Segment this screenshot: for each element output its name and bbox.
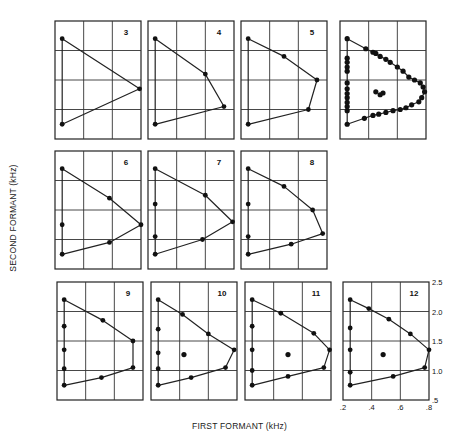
vowel-point: [311, 331, 316, 336]
vowel-point: [156, 383, 161, 388]
vowel-point: [363, 46, 368, 51]
vowel-point: [282, 54, 287, 59]
vowel-point: [408, 332, 413, 337]
vowel-point: [246, 122, 251, 127]
center-vowel-point: [381, 352, 386, 357]
panel-3: 3: [55, 21, 142, 139]
vowel-point: [246, 234, 251, 239]
vowel-point: [153, 166, 158, 171]
y-tick-label: 1.0: [432, 367, 442, 376]
vowel-point: [62, 366, 67, 371]
vowel-point: [232, 347, 237, 352]
vowel-point: [310, 208, 315, 213]
vowel-point: [327, 347, 332, 352]
vowel-point: [246, 166, 251, 171]
panel-number: 5: [310, 28, 315, 37]
vowel-point: [383, 57, 388, 62]
vowel-point: [246, 36, 251, 41]
vowel-point: [427, 347, 432, 352]
vowel-point: [62, 297, 67, 302]
vowel-point: [388, 60, 393, 65]
vowel-point: [153, 202, 158, 207]
vowel-point: [370, 113, 375, 118]
vowel-point: [60, 122, 65, 127]
panel-number: 12: [410, 289, 419, 298]
vowel-point: [345, 64, 350, 69]
panel-number: 10: [218, 289, 227, 298]
x-tick-label: .4: [369, 403, 375, 412]
vowel-point: [250, 368, 255, 373]
vowel-point: [223, 365, 228, 370]
vowel-point: [60, 252, 65, 257]
vowel-point: [348, 370, 353, 375]
vowel-point: [412, 77, 417, 82]
vowel-point: [422, 365, 427, 370]
panel-10: 10: [151, 282, 237, 400]
vowel-point: [62, 383, 67, 388]
vowel-point: [153, 234, 158, 239]
panel-number: 4: [217, 28, 222, 37]
vowel-point: [398, 107, 403, 112]
vowel-point: [406, 74, 411, 79]
vowel-point: [416, 99, 421, 104]
vowel-point: [250, 347, 255, 352]
panel-number: 6: [124, 158, 129, 167]
vowel-point: [348, 383, 353, 388]
vowel-point: [60, 222, 65, 227]
center-vowel-point: [373, 89, 378, 94]
vowel-point: [153, 122, 158, 127]
panel-number: 8: [310, 158, 315, 167]
vowel-point: [60, 166, 65, 171]
vowel-point: [409, 102, 414, 107]
panel-9: 9: [57, 282, 143, 400]
center-vowel-point: [380, 90, 385, 95]
vowel-point: [153, 36, 158, 41]
vowel-point: [250, 324, 255, 329]
vowel-point: [348, 297, 353, 302]
vowel-point: [421, 84, 426, 89]
vowel-point: [376, 112, 381, 117]
vowel-point: [100, 318, 105, 323]
vowel-point: [131, 365, 136, 370]
vowel-point: [131, 339, 136, 344]
vowel-point: [99, 375, 104, 380]
panel-4: 4: [148, 21, 234, 139]
vowel-point: [156, 350, 161, 355]
vowel-point: [139, 222, 144, 227]
vowel-point: [362, 116, 367, 121]
vowel-point: [378, 54, 383, 59]
panel-11: 11: [245, 282, 332, 400]
vowel-point: [180, 312, 185, 317]
vowel-point: [345, 91, 350, 96]
vowel-point: [203, 193, 208, 198]
vowel-point: [282, 184, 287, 189]
y-tick-label: 2.5: [432, 278, 442, 287]
vowel-point: [286, 374, 291, 379]
vowel-point: [345, 36, 350, 41]
vowel-point: [395, 64, 400, 69]
formant-chart-grid: 3456789101112.51.01.52.02.5.2.4.6.8: [0, 0, 462, 440]
center-vowel-point: [285, 352, 290, 357]
vowel-point: [156, 297, 161, 302]
vowel-point: [289, 242, 294, 247]
y-tick-label: .5: [432, 396, 438, 405]
panel-number: 3: [124, 28, 129, 37]
vowel-point: [383, 110, 388, 115]
panel-number: 7: [217, 158, 222, 167]
vowel-point: [222, 104, 227, 109]
vowel-point: [345, 86, 350, 91]
vowel-point: [348, 347, 353, 352]
vowel-point: [403, 105, 408, 110]
vowel-point: [345, 122, 350, 127]
panel-number: 9: [126, 289, 131, 298]
vowel-point: [320, 231, 325, 236]
center-vowel-point: [181, 352, 186, 357]
vowel-point: [62, 347, 67, 352]
vowel-point: [390, 108, 395, 113]
panel-12: 12: [343, 282, 431, 400]
vowel-point: [373, 51, 378, 56]
vowel-point: [400, 69, 405, 74]
x-tick-label: .2: [340, 403, 346, 412]
vowel-point: [345, 56, 350, 61]
vowel-point: [246, 202, 251, 207]
